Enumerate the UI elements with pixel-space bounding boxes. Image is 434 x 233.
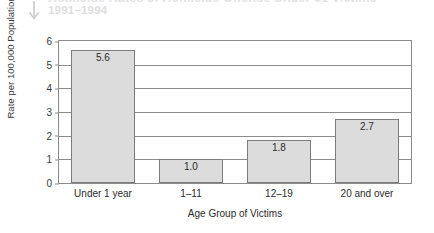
x-axis-title: Age Group of Victims xyxy=(58,208,412,219)
y-axis-tick-label: 4 xyxy=(25,83,59,94)
y-axis-tick-label: 2 xyxy=(25,130,59,141)
y-axis-tick-label: 0 xyxy=(25,178,59,189)
x-axis-tick-label: Under 1 year xyxy=(74,188,132,199)
y-axis-tick-label: 5 xyxy=(25,59,59,70)
bar: 1.8 xyxy=(247,140,310,183)
bar-value-label: 2.7 xyxy=(360,121,374,133)
y-axis-tick-label: 1 xyxy=(25,154,59,165)
y-axis-tick-label: 6 xyxy=(25,36,59,47)
x-axis-tick-label: 1–11 xyxy=(180,188,202,199)
bar: 5.6 xyxy=(71,50,134,183)
bar: 2.7 xyxy=(335,119,398,183)
bar-value-label: 5.6 xyxy=(96,52,110,64)
x-axis-tick-label: 20 and over xyxy=(341,188,394,199)
y-axis-tick-label: 3 xyxy=(25,107,59,118)
bar-value-label: 1.8 xyxy=(272,142,286,154)
plot-area: 0123456 5.61.01.82.7 Under 1 year1–1112–… xyxy=(58,40,412,184)
x-axis-tick-label: 12–19 xyxy=(265,188,293,199)
bar-chart: 0123456 5.61.01.82.7 Under 1 year1–1112–… xyxy=(0,0,434,233)
bar-series: 5.61.01.82.7 xyxy=(59,41,411,183)
bar-value-label: 1.0 xyxy=(184,161,198,173)
bar: 1.0 xyxy=(159,159,222,183)
y-axis-title: Rate per 100,000 Population xyxy=(5,0,16,148)
